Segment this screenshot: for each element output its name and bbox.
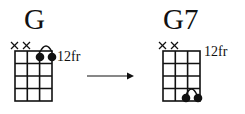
muted-string-icon <box>11 42 30 49</box>
muted-string-icon <box>159 42 178 49</box>
finger-dot-icon <box>36 53 45 62</box>
finger-dot-icon <box>182 94 191 103</box>
chord-diagrams <box>0 0 245 114</box>
chord-grid-g <box>15 51 52 101</box>
arrow-right-icon <box>87 73 134 80</box>
finger-dot-icon <box>48 53 57 62</box>
chord-grid-g7 <box>163 51 200 101</box>
finger-dot-icon <box>194 94 203 103</box>
